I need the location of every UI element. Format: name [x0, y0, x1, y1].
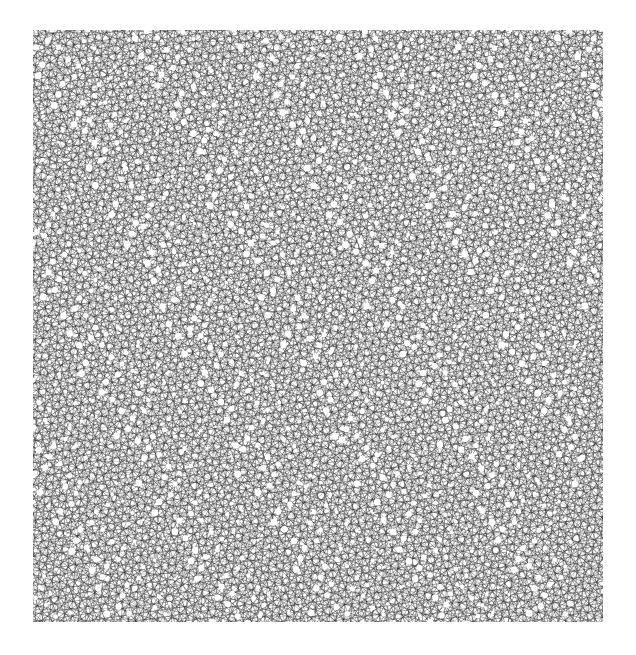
quasiperiodic-pattern-surface [33, 30, 603, 622]
artboard [0, 0, 636, 655]
